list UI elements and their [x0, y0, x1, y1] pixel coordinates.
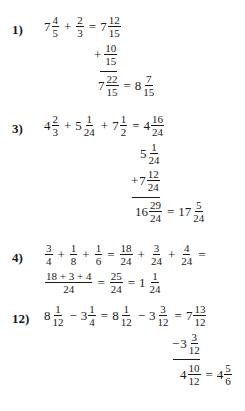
- sum-rule: [132, 197, 160, 198]
- fraction: 45: [52, 14, 60, 39]
- fraction: 12: [120, 113, 128, 138]
- equation-line-2: 18 + 3 + 424 = 2524 = 1 124: [44, 270, 163, 295]
- fraction: 56: [224, 362, 232, 387]
- problem-label: 12): [12, 311, 29, 327]
- problem-label: 3): [12, 121, 23, 137]
- fraction: 1624: [151, 113, 164, 138]
- fraction: 2215: [106, 73, 119, 98]
- difference-rule: [173, 359, 200, 360]
- fraction: 1312: [193, 303, 206, 328]
- fraction: 124: [148, 141, 161, 166]
- equation-line: 8 112 − 3 14 = 8 112 − 3 312 = 7 1312: [44, 303, 207, 328]
- fraction: 1824: [120, 242, 133, 267]
- fraction: 424: [180, 242, 193, 267]
- stack-sum: 16 2924 = 17 524: [135, 199, 206, 224]
- fraction: 324: [150, 242, 163, 267]
- fraction: 1215: [108, 14, 121, 39]
- stack-sum: 7 2215 = 8 715: [98, 73, 156, 98]
- fraction: 18: [70, 242, 78, 267]
- fraction: 124: [83, 113, 96, 138]
- fraction: 23: [76, 14, 84, 39]
- fraction: 2924: [149, 199, 162, 224]
- stack-addend: + 1015: [94, 42, 118, 67]
- fraction: 1224: [147, 168, 160, 193]
- problem-label: 4): [12, 250, 23, 266]
- fraction: 34: [45, 242, 53, 267]
- fraction: 16: [95, 242, 103, 267]
- fraction: 2524: [110, 270, 123, 295]
- fraction: 112: [52, 303, 65, 328]
- fraction: 112: [120, 303, 133, 328]
- fraction: 18 + 3 + 424: [45, 270, 92, 295]
- fraction: 1012: [188, 362, 201, 387]
- fraction: 23: [52, 113, 60, 138]
- fraction: 14: [88, 303, 96, 328]
- fraction: 524: [192, 199, 205, 224]
- stack-row-2: 5 124: [140, 141, 162, 166]
- stack-difference: 4 1012 = 4 56: [180, 362, 233, 387]
- fraction: 1015: [104, 42, 117, 67]
- stack-row-3: + 7 1224: [131, 168, 161, 193]
- problem-label: 1): [12, 22, 23, 38]
- sum-rule: [100, 71, 117, 72]
- stack-subtrahend: − 3 312: [172, 331, 202, 356]
- equation-line: 4 23 + 5 124 + 7 12 = 4 1624: [44, 113, 165, 138]
- fraction: 715: [142, 73, 155, 98]
- fraction: 124: [149, 270, 162, 295]
- equation-line: 7 45 + 23 = 7 1215: [44, 14, 122, 39]
- fraction: 312: [157, 303, 170, 328]
- fraction: 312: [188, 331, 201, 356]
- equation-line: 34 + 18 + 16 = 1824 + 324 + 424 =: [44, 242, 210, 267]
